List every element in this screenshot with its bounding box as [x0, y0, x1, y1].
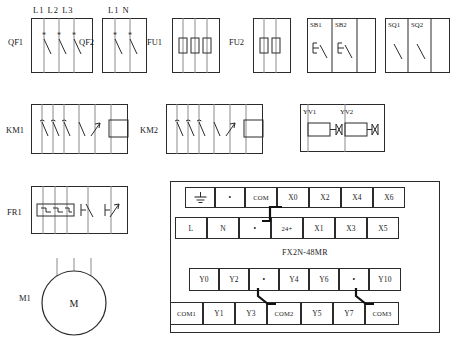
fu1-symbol	[172, 18, 220, 73]
diagram-canvas: QF1 L1 L2 L3 * * * QF2 L1 N * * FU1 FU2	[0, 0, 455, 342]
svg-text:*: *	[113, 31, 117, 40]
fu2-label: FU2	[229, 38, 244, 47]
plc-terminal-y2[interactable]: Y2	[219, 268, 249, 291]
km1-label: KM1	[6, 126, 24, 135]
qf2-label: QF2	[79, 38, 94, 47]
plc-terminal-l[interactable]: L	[175, 217, 207, 239]
input-row-step-connector	[262, 203, 284, 223]
plc-terminal-x5[interactable]: X5	[367, 217, 399, 239]
km2-symbol	[166, 104, 263, 154]
svg-text:*: *	[72, 31, 76, 40]
svg-text:*: *	[57, 31, 61, 40]
plc-terminal-y6[interactable]: Y6	[309, 268, 339, 291]
plc-terminal-x4[interactable]: X4	[341, 187, 373, 208]
plc-terminal-x2[interactable]: X2	[309, 187, 341, 208]
svg-text:*: *	[42, 31, 46, 40]
output-row-step-connector-2	[356, 288, 378, 306]
plc-terminal-com1[interactable]: COM1	[170, 302, 203, 325]
svg-text:*: *	[128, 31, 132, 40]
qf1-label: QF1	[8, 38, 23, 47]
sq1-label: SQ1	[388, 22, 400, 29]
fu2-symbol	[253, 18, 291, 73]
plc-terminal-x3[interactable]: X3	[335, 217, 367, 239]
plc-terminal-x1[interactable]: X1	[303, 217, 335, 239]
plc-terminal-y4[interactable]: Y4	[279, 268, 309, 291]
yv1-label: YV1	[303, 109, 316, 116]
motor-symbol: M	[28, 258, 128, 338]
qf2-symbol: * *	[102, 18, 147, 73]
plc-terminal-dot-top[interactable]: •	[215, 187, 245, 208]
fr1-symbol	[31, 186, 128, 234]
plc-terminal-y1[interactable]: Y1	[203, 302, 235, 325]
qf1-terminal-labels: L1 L2 L3	[33, 6, 74, 15]
plc-terminal-x6[interactable]: X6	[373, 187, 405, 208]
svg-text:M: M	[70, 298, 79, 309]
fr1-label: FR1	[7, 208, 22, 217]
ground-terminal[interactable]	[185, 187, 215, 208]
ground-icon	[193, 191, 208, 205]
sb2-label: SB2	[335, 22, 347, 29]
yv2-label: YV2	[340, 109, 353, 116]
km2-label: KM2	[140, 126, 158, 135]
qf2-terminal-labels: L1 N	[108, 6, 130, 15]
plc-terminal-y5[interactable]: Y5	[301, 302, 333, 325]
sq2-label: SQ2	[411, 22, 423, 29]
plc-terminal-n[interactable]: N	[207, 217, 239, 239]
plc-terminal-y0[interactable]: Y0	[189, 268, 219, 291]
fu1-label: FU1	[147, 38, 162, 47]
sb1-label: SB1	[310, 22, 322, 29]
km1-symbol	[31, 104, 128, 154]
output-row-step-connector-1	[258, 288, 280, 306]
plc-model-label: FX2N-48MR	[170, 248, 440, 257]
